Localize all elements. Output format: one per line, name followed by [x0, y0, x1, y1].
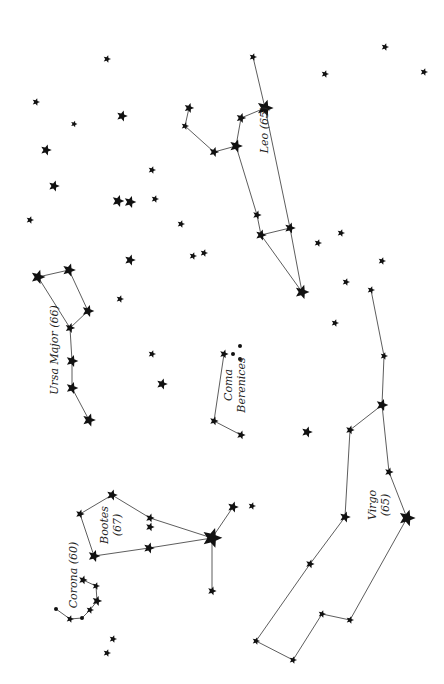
bootes-line	[150, 518, 212, 538]
ursa-major-star-icon	[83, 413, 96, 426]
svg-text:Leo (65): Leo (65)	[258, 107, 271, 155]
svg-text:Ursa Major (66): Ursa Major (66)	[48, 305, 61, 394]
field-star-icon	[117, 295, 124, 303]
field-star-icon	[249, 502, 256, 510]
virgo-line	[293, 614, 322, 660]
field-star-icon	[104, 649, 111, 657]
virgo-line	[382, 405, 389, 472]
leo-star-icon	[210, 147, 219, 157]
field-star-icon	[149, 350, 156, 358]
ursa-major-star-icon	[63, 263, 76, 276]
field-star-icon	[117, 111, 127, 122]
field-star-icon	[125, 255, 135, 266]
field-star-icon	[201, 249, 208, 257]
ursa-major-line	[72, 388, 89, 420]
virgo-star-icon	[377, 399, 388, 411]
virgo-line	[371, 290, 384, 356]
svg-text:Coma: Coma	[222, 369, 235, 401]
field-star-icon	[110, 635, 117, 643]
leo-star-icon	[185, 103, 194, 113]
virgo-star-icon	[253, 637, 260, 645]
field-star-icon	[302, 427, 312, 438]
bootes-star-icon	[144, 543, 154, 554]
leo-line	[236, 146, 257, 215]
coma-berenices-label: ComaBerenices	[222, 357, 248, 414]
coma-berenices-line	[214, 421, 241, 435]
corona-faint-star-dot	[80, 616, 84, 620]
field-star-icon	[41, 145, 51, 156]
leo-line	[261, 228, 290, 235]
field-star-icon	[157, 379, 167, 390]
virgo-line	[256, 641, 293, 660]
leo-line	[261, 235, 302, 292]
constellation-lines	[38, 57, 407, 660]
leo-line	[290, 228, 302, 292]
field-star-icon	[149, 166, 156, 174]
ursa-major-star-icon	[67, 382, 78, 394]
field-star-icon	[322, 70, 329, 78]
leo-star-icon	[285, 223, 295, 234]
virgo-line	[350, 405, 382, 430]
virgo-line	[382, 356, 384, 405]
ursa-major-line	[70, 328, 72, 361]
bootes-star-icon	[146, 523, 154, 532]
bootes-star-icon	[208, 587, 216, 596]
virgo-star-icon	[347, 616, 354, 624]
virgo-star-icon	[385, 468, 393, 477]
coma-berenices-faint-star-dot	[238, 344, 242, 348]
virgo-star-icon	[290, 656, 297, 664]
field-star-icon	[27, 216, 34, 224]
bootes-label: Bootes(67)	[98, 506, 124, 545]
virgo-star-icon	[381, 352, 388, 360]
virgo-line	[256, 564, 310, 641]
bootes-star-icon	[76, 510, 84, 519]
coma-berenices-star-icon	[237, 431, 245, 440]
constellation-labels: Leo (65)Ursa Major (66)ComaBerenicesVirg…	[48, 107, 392, 609]
svg-text:Virgo: Virgo	[366, 490, 379, 521]
coma-berenices-faint-star-dot	[231, 352, 235, 356]
field-star-icon	[49, 181, 59, 192]
field-star-icon	[104, 55, 111, 63]
stars	[27, 43, 428, 664]
leo-line	[185, 126, 214, 152]
field-star-icon	[338, 229, 345, 237]
svg-text:Berenices: Berenices	[235, 357, 248, 414]
leo-label: Leo (65)	[258, 107, 271, 155]
bootes-star-icon	[107, 490, 117, 501]
corona-label: Corona (60)	[67, 542, 80, 609]
star-chart: Leo (65)Ursa Major (66)ComaBerenicesVirg…	[0, 0, 444, 684]
ursa-major-star-icon	[83, 305, 94, 317]
svg-text:(67): (67)	[111, 514, 124, 537]
virgo-line	[350, 518, 407, 620]
corona-star-icon	[79, 576, 87, 585]
bootes-star-icon	[228, 502, 238, 513]
field-star-icon	[125, 196, 136, 208]
bootes-star-icon	[146, 514, 154, 523]
leo-star-icon	[253, 211, 261, 220]
field-star-icon	[152, 195, 159, 203]
coma-berenices-star-icon	[210, 417, 218, 426]
field-star-icon	[343, 278, 350, 286]
leo-star-icon	[250, 53, 257, 61]
svg-text:Bootes: Bootes	[98, 506, 111, 545]
field-star-icon	[332, 319, 339, 327]
virgo-label: Virgo(65)	[366, 490, 392, 521]
virgo-star-icon	[319, 610, 326, 618]
leo-star-icon	[256, 230, 266, 241]
field-star-icon	[33, 98, 40, 106]
virgo-line	[322, 614, 350, 620]
field-star-icon	[190, 252, 197, 260]
corona-star-icon	[93, 582, 100, 590]
bootes-star-icon	[204, 528, 223, 548]
coma-berenices-star-icon	[220, 350, 228, 359]
field-star-icon	[315, 239, 322, 247]
ursa-major-star-icon	[67, 355, 78, 367]
virgo-line	[345, 430, 350, 517]
bootes-line	[94, 548, 149, 556]
field-star-icon	[178, 220, 185, 228]
bootes-line	[149, 538, 212, 548]
ursa-major-line	[69, 270, 88, 311]
virgo-star-icon	[400, 510, 416, 526]
bootes-star-icon	[89, 550, 100, 562]
field-star-icon	[71, 121, 77, 128]
